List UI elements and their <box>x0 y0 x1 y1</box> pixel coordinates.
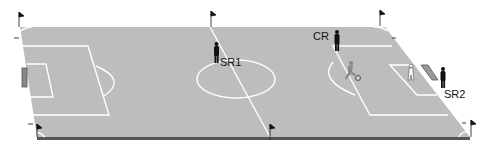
label-sr1: SR1 <box>220 56 241 68</box>
soccer-field-diagram: SR1 CR SR2 <box>0 0 488 149</box>
pitch <box>20 27 470 137</box>
label-cr: CR <box>313 30 329 42</box>
ball-icon <box>356 76 361 81</box>
flag-icon <box>19 12 24 27</box>
left-goal <box>22 68 27 87</box>
label-sr2: SR2 <box>444 88 465 100</box>
flag-icon <box>380 10 385 26</box>
pitch-edge <box>37 137 470 140</box>
flag-icon <box>471 120 476 137</box>
flag-icon <box>211 11 216 27</box>
referee-figure-sr2 <box>441 67 446 88</box>
